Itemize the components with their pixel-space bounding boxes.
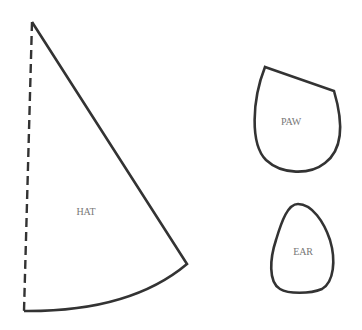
ear-label: EAR [293,246,312,257]
hat-cut-outline [24,22,187,311]
hat-fold-line [24,22,32,311]
pattern-canvas [0,0,362,330]
hat-label: HAT [77,206,96,217]
hat-piece [24,22,187,311]
paw-label: PAW [281,116,301,127]
